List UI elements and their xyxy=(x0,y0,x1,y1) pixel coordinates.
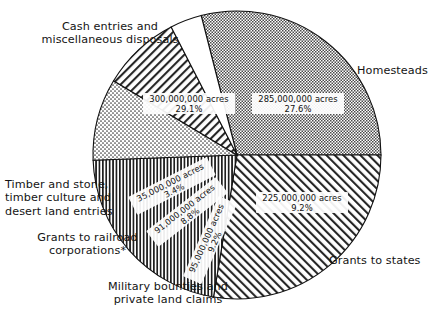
slice-value-grants-to-states: 225,000,000 acres xyxy=(262,193,341,203)
slice-value-homesteads: 285,000,000 acres xyxy=(258,94,337,104)
pie-chart-svg: 300,000,000 acres 29.1% 285,000,000 acre… xyxy=(0,0,433,322)
slice-label-cash-entries: 300,000,000 acres 29.1% xyxy=(143,93,235,114)
callout-label-timber-stone: Timber and stone, timber culture and des… xyxy=(5,178,142,218)
slice-label-grants-to-states: 225,000,000 acres 9.2% xyxy=(256,192,348,213)
callout-label-grants-to-states: Grants to states xyxy=(329,254,421,267)
callout-label-railroad-grants: Grants to railroad corporations* xyxy=(20,231,155,258)
slice-value-cash-entries: 300,000,000 acres xyxy=(149,94,228,104)
callout-label-cash-entries: Cash entries and miscellaneous disposals xyxy=(26,20,194,47)
pie-chart: 300,000,000 acres 29.1% 285,000,000 acre… xyxy=(0,0,433,322)
slice-label-homesteads: 285,000,000 acres 27.6% xyxy=(252,93,344,114)
slice-percent-grants-to-states: 9.2% xyxy=(291,203,312,213)
pie-slice-homesteads[interactable] xyxy=(213,155,381,299)
callout-label-military-bounties: Military bounties and private land claim… xyxy=(96,280,240,307)
slice-percent-cash-entries: 29.1% xyxy=(176,104,203,114)
slice-percent-homesteads: 27.6% xyxy=(285,104,312,114)
callout-label-homesteads: Homesteads xyxy=(357,64,428,77)
